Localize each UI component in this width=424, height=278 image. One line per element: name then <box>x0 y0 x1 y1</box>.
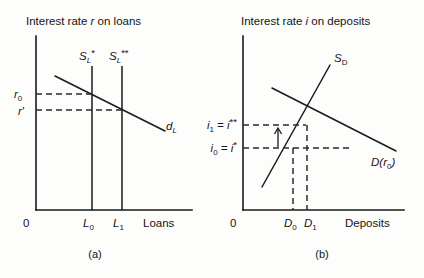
panel-a: Interest rate r on loans r0 r′ <box>14 15 192 260</box>
panel-a-title-prefix: Interest rate <box>26 15 91 27</box>
panel-a-caption: (a) <box>88 248 101 260</box>
panel-b-ytick-i1: i1 = i** <box>207 116 237 134</box>
panel-a-ytick-rprime: r′ <box>18 105 25 117</box>
panel-b-title-suffix: on deposits <box>308 15 370 27</box>
panel-a-curve-demand <box>55 76 165 131</box>
panel-b-caption: (b) <box>315 248 328 260</box>
panel-a-origin-label: 0 <box>23 217 29 229</box>
panel-a-x-axis-label: Loans <box>143 217 175 229</box>
economics-figure: Interest rate r on loans r0 r′ <box>0 0 424 278</box>
panel-a-title-suffix: on loans <box>94 15 141 27</box>
panel-b: Interest rate i on deposits i1 <box>207 15 404 260</box>
panel-b-title: Interest rate i on deposits <box>241 15 370 27</box>
panel-a-title: Interest rate r on loans <box>26 15 141 27</box>
panel-b-curve-supply <box>262 65 330 187</box>
figure-canvas: Interest rate r on loans r0 r′ <box>0 0 424 278</box>
panel-b-xtick-D1: D1 <box>304 217 317 232</box>
panel-b-label-supply: SD <box>334 52 348 67</box>
panel-b-ytick-i0: i0 = i* <box>211 139 238 157</box>
panel-a-label-supply-doublestar: SL** <box>109 47 129 65</box>
panel-b-label-demand: D(r0) <box>371 156 395 171</box>
panel-a-label-demand: dL <box>166 120 177 135</box>
panel-b-curve-demand <box>272 88 396 151</box>
panel-b-xtick-D0: D0 <box>284 217 297 232</box>
panel-b-title-prefix: Interest rate <box>241 15 306 27</box>
panel-a-label-supply-star: SL* <box>79 47 95 65</box>
panel-b-origin-label: 0 <box>230 217 236 229</box>
panel-a-ytick-r0: r0 <box>14 88 23 103</box>
panel-a-xtick-L1: L1 <box>113 217 124 232</box>
panel-b-x-axis-label: Deposits <box>345 217 390 229</box>
panel-a-xtick-L0: L0 <box>83 217 94 232</box>
